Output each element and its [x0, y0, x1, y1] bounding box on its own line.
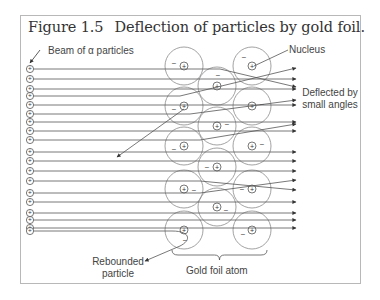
gold-atom: +−: [165, 127, 203, 165]
beam-label: Beam of α particles: [48, 45, 134, 57]
beam-pointer-arrow: [30, 50, 40, 63]
electron-icon: −: [192, 186, 197, 195]
alpha-particle: +: [26, 177, 33, 184]
alpha-particle: +: [26, 127, 33, 134]
positive-charge-icon: +: [215, 164, 219, 171]
deflected-label-line2: small angles: [300, 99, 360, 111]
gold-atom: +−: [198, 67, 236, 105]
positive-charge-icon: +: [182, 63, 186, 70]
alpha-particle: +: [26, 118, 33, 125]
nucleus-label: Nucleus: [289, 44, 325, 56]
positive-charge-icon: +: [215, 204, 219, 211]
positive-charge-icon: +: [28, 189, 32, 196]
electron-icon: −: [224, 206, 229, 215]
positive-charge-icon: +: [215, 123, 219, 130]
electron-icon: −: [172, 59, 177, 68]
positive-charge-icon: +: [250, 63, 254, 70]
positive-charge-icon: +: [28, 65, 32, 72]
alpha-particle: +: [26, 216, 33, 223]
positive-charge-icon: +: [28, 216, 32, 223]
alpha-particle: +: [26, 101, 33, 108]
positive-charge-icon: +: [28, 75, 32, 82]
alpha-trajectory: [33, 100, 296, 114]
electron-icon: −: [242, 53, 247, 62]
positive-charge-icon: +: [28, 177, 32, 184]
alpha-particle: +: [26, 136, 33, 143]
alpha-trajectory: [33, 124, 296, 140]
alpha-particle: +: [26, 75, 33, 82]
positive-charge-icon: +: [28, 227, 32, 234]
electron-icon: −: [172, 105, 177, 114]
gold-atom: +−: [233, 211, 271, 249]
alpha-particle: +: [26, 92, 33, 99]
alpha-particle: +: [26, 189, 33, 196]
rebounded-label-line1: Rebounded: [88, 256, 148, 268]
positive-charge-icon: +: [28, 198, 32, 205]
positive-charge-icon: +: [182, 186, 186, 193]
electron-icon: −: [225, 120, 230, 129]
positive-charge-icon: +: [28, 101, 32, 108]
positive-charge-icon: +: [250, 186, 254, 193]
alpha-particle: +: [26, 65, 33, 72]
deflected-label: Deflected by small angles: [300, 87, 360, 111]
alpha-particle: +: [26, 198, 33, 205]
gold-foil-atom-label: Gold foil atom: [186, 265, 248, 277]
electron-icon: −: [260, 140, 265, 149]
deflected-label-line1: Deflected by: [300, 87, 360, 99]
alpha-particle: +: [26, 227, 33, 234]
positive-charge-icon: +: [28, 136, 32, 143]
rebounded-label-line2: particle: [88, 268, 148, 280]
positive-charge-icon: +: [182, 143, 186, 150]
positive-charge-icon: +: [182, 103, 186, 110]
positive-charge-icon: +: [28, 118, 32, 125]
electron-icon: −: [172, 145, 177, 154]
alpha-particle: +: [26, 157, 33, 164]
gold-atom: +−: [233, 127, 271, 165]
electron-icon: −: [240, 185, 245, 194]
positive-charge-icon: +: [28, 85, 32, 92]
gold-atom: +−: [165, 87, 203, 125]
positive-charge-icon: +: [28, 209, 32, 216]
positive-charge-icon: +: [250, 143, 254, 150]
alpha-trajectory: [33, 68, 296, 96]
gold-atom: +−: [198, 148, 236, 186]
positive-charge-icon: +: [28, 167, 32, 174]
positive-charge-icon: +: [28, 157, 32, 164]
positive-charge-icon: +: [28, 127, 32, 134]
gold-foil-atom-bracket: [172, 250, 267, 260]
positive-charge-icon: +: [215, 83, 219, 90]
alpha-particle: +: [26, 110, 33, 117]
rebounded-label: Rebounded particle: [88, 256, 148, 280]
positive-charge-icon: +: [28, 148, 32, 155]
positive-charge-icon: +: [28, 110, 32, 117]
alpha-particle: +: [26, 148, 33, 155]
positive-charge-icon: +: [28, 92, 32, 99]
alpha-particle: +: [26, 167, 33, 174]
electron-icon: −: [241, 230, 246, 239]
alpha-particle-beam: +++++++++++++++++++: [26, 65, 33, 234]
